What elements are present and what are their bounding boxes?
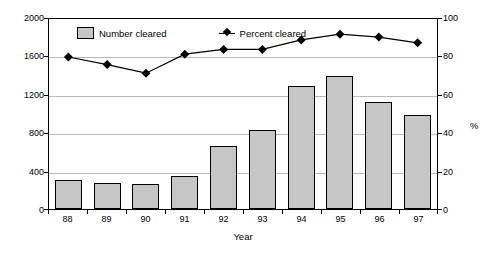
legend-item-percent-cleared: Percent cleared [219, 28, 307, 39]
x-tick-90: 90 [126, 214, 165, 228]
x-tick-88: 88 [48, 214, 87, 228]
x-tick-97: 97 [399, 214, 438, 228]
x-tick-92: 92 [204, 214, 243, 228]
y-tick-right-2: 60 [443, 90, 453, 100]
x-axis-tick-labels: 88 89 90 91 92 93 94 95 96 97 [48, 214, 438, 228]
y-tick-left-5: 0 [14, 205, 44, 215]
x-tick-95: 95 [321, 214, 360, 228]
y-tick-right-3: 40 [443, 128, 453, 138]
line-series-percent-cleared [49, 19, 437, 209]
plot-area: Number cleared Percent cleared [48, 18, 438, 210]
x-tick-93: 93 [243, 214, 282, 228]
diamond-line-icon [219, 28, 235, 38]
y-tick-right-5: 0 [443, 205, 448, 215]
y-tick-right-4: 20 [443, 167, 453, 177]
y-tick-right-0: 100 [443, 13, 458, 23]
x-axis-title: Year [48, 231, 438, 242]
y-tick-left-4: 400 [14, 167, 44, 177]
chart-container: 2000 1600 1200 800 400 0 100 80 60 40 20… [0, 0, 499, 266]
x-tick-89: 89 [87, 214, 126, 228]
y-tick-left-3: 800 [14, 128, 44, 138]
y-tick-left-1: 1600 [14, 51, 44, 61]
y-tick-right-1: 80 [443, 51, 453, 61]
x-tick-96: 96 [360, 214, 399, 228]
legend-label-percent-cleared: Percent cleared [240, 28, 307, 39]
x-tick-94: 94 [282, 214, 321, 228]
y-axis-right-title: % [470, 120, 478, 131]
bar-swatch-icon [77, 27, 94, 39]
y-axis-right-tickmarks [438, 18, 442, 210]
legend-label-number-cleared: Number cleared [99, 28, 167, 39]
y-axis-right-labels: 100 80 60 40 20 0 [443, 18, 469, 210]
y-tick-left-2: 1200 [14, 90, 44, 100]
y-axis-left-labels: 2000 1600 1200 800 400 0 [14, 18, 44, 210]
legend-item-number-cleared: Number cleared [77, 27, 167, 39]
chart-legend: Number cleared Percent cleared [77, 27, 306, 39]
y-tick-left-0: 2000 [14, 13, 44, 23]
x-tick-91: 91 [165, 214, 204, 228]
